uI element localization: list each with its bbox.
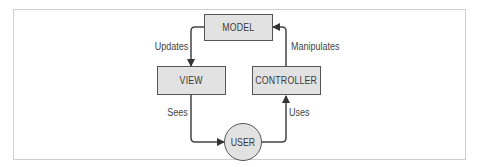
node-view: VIEW bbox=[157, 66, 226, 95]
edge-uses-arrow bbox=[262, 96, 286, 142]
node-user: USER bbox=[224, 123, 262, 161]
node-controller-label: CONTROLLER bbox=[256, 75, 318, 86]
edge-manipulates-arrow bbox=[273, 27, 286, 66]
edge-label-uses: Uses bbox=[289, 107, 312, 119]
node-model-label: MODEL bbox=[222, 22, 254, 33]
edge-label-updates: Updates bbox=[130, 41, 188, 53]
node-controller: CONTROLLER bbox=[252, 66, 321, 95]
edge-updates-arrow bbox=[191, 27, 204, 66]
edge-label-sees: Sees bbox=[150, 107, 188, 119]
edge-label-manipulates: Manipulates bbox=[291, 41, 345, 53]
node-view-label: VIEW bbox=[180, 75, 203, 86]
node-model: MODEL bbox=[204, 14, 273, 41]
node-user-label: USER bbox=[231, 137, 255, 148]
edge-sees-arrow bbox=[191, 95, 224, 142]
